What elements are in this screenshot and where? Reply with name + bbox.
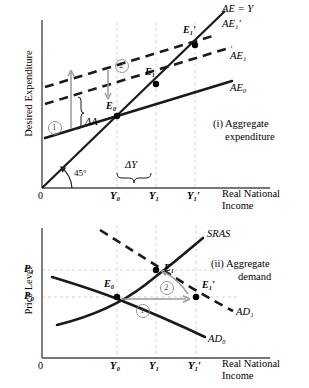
panel-i-group	[42, 11, 270, 188]
economics-figure: Desired Expenditure AE = Y AE₁′ AE₁ AE₀ …	[0, 0, 309, 388]
curve-ae-equals-y	[42, 11, 225, 188]
step-1-circle-top	[49, 122, 62, 135]
brace-delta-a	[78, 97, 84, 129]
point-e1-top	[153, 81, 159, 87]
point-e1-prime-top	[192, 42, 198, 48]
step-2-circle-bottom	[161, 282, 174, 295]
arrow-step2-bottom	[164, 272, 188, 294]
brace-delta-y	[117, 173, 151, 183]
point-e1-bottom	[153, 267, 159, 273]
curve-ae0	[45, 81, 232, 138]
point-e0-top	[114, 113, 120, 119]
point-e1-prime-bottom	[193, 294, 199, 300]
point-e0-bottom	[114, 294, 120, 300]
panel-ii-group	[42, 225, 270, 358]
figure-canvas	[0, 0, 309, 388]
